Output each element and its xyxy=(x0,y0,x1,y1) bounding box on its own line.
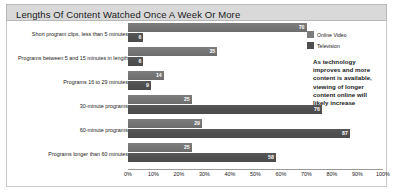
table-row: 60-minute programs2987 xyxy=(0,118,393,142)
bar-value-label: 29 xyxy=(194,119,200,128)
bar-value-label: 87 xyxy=(342,129,348,138)
bar-value-label: 6 xyxy=(138,33,141,42)
legend-item-label: Online Video xyxy=(317,31,347,39)
bar-television: 6 xyxy=(128,33,143,42)
bar-group: 2558 xyxy=(128,142,383,166)
bar-online-video: 35 xyxy=(128,47,217,56)
bar-online-video: 25 xyxy=(128,143,192,152)
legend-item[interactable]: Television xyxy=(307,42,387,51)
bar-value-label: 9 xyxy=(146,81,149,90)
bar-online-video: 29 xyxy=(128,119,202,128)
axis-tick-label: 60% xyxy=(276,171,287,177)
x-axis-ticks: 0%10%20%30%40%50%60%70%80%90%100% xyxy=(128,170,383,184)
bar-television: 76 xyxy=(128,105,322,114)
bar-value-label: 14 xyxy=(156,71,162,80)
category-label: 30-minute programs xyxy=(8,103,128,109)
legend-swatch-icon xyxy=(307,42,314,49)
axis-tick-label: 0% xyxy=(124,171,132,177)
bar-value-label: 70 xyxy=(299,23,305,32)
category-label: Programs 16 to 29 minutes xyxy=(8,79,128,85)
legend-swatch-icon xyxy=(307,31,314,38)
bar-television: 9 xyxy=(128,81,151,90)
category-label: Short program clips, less than 5 minutes xyxy=(8,31,128,37)
axis-tick-label: 100% xyxy=(376,171,390,177)
bar-group: 2987 xyxy=(128,118,383,142)
category-label: Programs longer than 60 minutes xyxy=(8,151,128,157)
chart-legend: Online VideoTelevision xyxy=(307,31,387,53)
axis-tick-label: 20% xyxy=(174,171,185,177)
bar-television: 87 xyxy=(128,129,350,138)
page-title: Lengths Of Content Watched Once A Week O… xyxy=(16,9,240,20)
bar-value-label: 6 xyxy=(138,57,141,66)
bar-online-video: 70 xyxy=(128,23,307,32)
annotation-callout: As technology improves and more content … xyxy=(313,58,381,107)
axis-tick-label: 50% xyxy=(250,171,261,177)
chart-card: Lengths Of Content Watched Once A Week O… xyxy=(0,0,393,192)
bar-television: 6 xyxy=(128,57,143,66)
legend-item[interactable]: Online Video xyxy=(307,31,387,40)
bar-value-label: 25 xyxy=(184,95,190,104)
table-row: Programs longer than 60 minutes2558 xyxy=(0,142,393,166)
chart-title-bar: Lengths Of Content Watched Once A Week O… xyxy=(6,4,387,21)
bar-value-label: 35 xyxy=(209,47,215,56)
axis-tick-label: 70% xyxy=(301,171,312,177)
axis-tick-label: 10% xyxy=(148,171,159,177)
bar-online-video: 14 xyxy=(128,71,164,80)
axis-tick-label: 40% xyxy=(225,171,236,177)
bar-value-label: 25 xyxy=(184,143,190,152)
legend-item-label: Television xyxy=(317,42,340,50)
axis-tick-label: 90% xyxy=(352,171,363,177)
category-label: Programs between 5 and 15 minutes in len… xyxy=(8,55,128,61)
bar-television: 58 xyxy=(128,153,276,162)
category-label: 60-minute programs xyxy=(8,127,128,133)
axis-tick-label: 80% xyxy=(327,171,338,177)
bar-value-label: 58 xyxy=(268,153,274,162)
axis-tick-label: 30% xyxy=(199,171,210,177)
bar-online-video: 25 xyxy=(128,95,192,104)
